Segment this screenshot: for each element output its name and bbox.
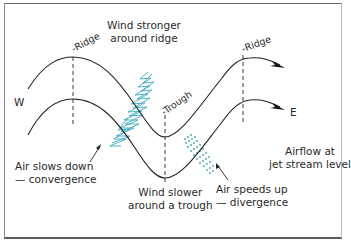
convergence-pointer-head [96,144,101,150]
air-speeds-label: Air speeds up — divergence [216,183,288,209]
air-slows-line2: — convergence [15,173,97,186]
air-speeds-line2: — divergence [216,196,288,209]
air-slows-line1: Air slows down [15,160,97,173]
airflow-label: Airflow at jet stream level [269,145,351,171]
wind-slower-line1: Wind slower [128,186,213,199]
wind-stronger-label: Wind stronger around ridge [107,19,181,45]
airflow-line1: Airflow at [269,145,351,158]
upper-airflow-curve [28,57,280,137]
divergence-pointer [218,166,228,180]
convergence-scribble [110,72,154,146]
air-slows-label: Air slows down — convergence [15,160,97,186]
wind-slower-line2: around a trough [128,199,213,212]
west-label: W [14,96,24,109]
air-speeds-line1: Air speeds up [216,183,288,196]
wind-slower-label: Wind slower around a trough [128,186,213,212]
wind-stronger-line2: around ridge [107,32,181,45]
east-label: E [290,106,297,119]
divergence-dots [184,134,214,174]
airflow-line2: jet stream level [269,158,351,171]
wind-stronger-line1: Wind stronger [107,19,181,32]
